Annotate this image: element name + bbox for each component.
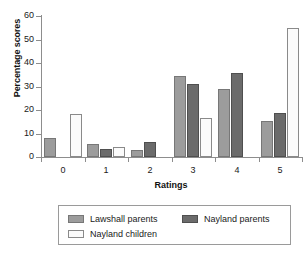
bar xyxy=(274,113,286,157)
x-tick-mark xyxy=(85,157,86,162)
x-tick-label: 2 xyxy=(135,165,165,175)
x-tick-label: 4 xyxy=(222,165,252,175)
y-tick-label: 20 xyxy=(0,105,34,114)
x-tick-mark xyxy=(215,157,216,162)
bar xyxy=(87,144,99,157)
y-tick-label: 40 xyxy=(0,58,34,67)
bar xyxy=(231,73,243,157)
legend-swatch-icon xyxy=(68,215,84,223)
x-tick-mark xyxy=(259,157,260,162)
bar xyxy=(100,149,112,157)
plot-area: Percentage scores Ratings 0102030405060 … xyxy=(0,0,307,200)
x-axis-title: Ratings xyxy=(40,180,302,190)
y-tick-label: 30 xyxy=(0,82,34,91)
bar xyxy=(144,142,156,157)
bar xyxy=(174,76,186,157)
legend-item-nayland-parents: Nayland parents xyxy=(182,214,270,224)
bar xyxy=(187,84,199,157)
legend-item-lawshall-parents: Lawshall parents xyxy=(68,214,158,224)
legend-label: Nayland children xyxy=(90,229,157,239)
bar xyxy=(218,89,230,157)
bar xyxy=(113,147,125,157)
y-tick-label: 10 xyxy=(0,129,34,138)
x-tick-mark xyxy=(172,157,173,162)
x-tick-label: 1 xyxy=(91,165,121,175)
y-tick-mark xyxy=(36,110,41,111)
legend-swatch-icon xyxy=(68,230,84,238)
bar-chart: Percentage scores Ratings 0102030405060 … xyxy=(0,0,307,253)
legend-label: Lawshall parents xyxy=(90,214,158,224)
y-tick-mark xyxy=(36,16,41,17)
y-tick-mark xyxy=(36,134,41,135)
y-tick-mark xyxy=(36,40,41,41)
bar xyxy=(261,121,273,157)
y-tick-mark xyxy=(36,87,41,88)
bar xyxy=(200,118,212,157)
x-tick-label: 0 xyxy=(48,165,78,175)
bar xyxy=(131,150,143,157)
x-tick-mark xyxy=(41,157,42,162)
legend-item-nayland-children: Nayland children xyxy=(68,229,157,239)
x-tick-mark xyxy=(302,157,303,162)
legend-label: Nayland parents xyxy=(204,214,270,224)
bar xyxy=(70,114,82,157)
bar xyxy=(287,28,299,157)
y-tick-label: 60 xyxy=(0,11,34,20)
y-tick-mark xyxy=(36,63,41,64)
y-axis-line xyxy=(41,15,42,158)
x-tick-mark xyxy=(128,157,129,162)
y-tick-label: 0 xyxy=(0,152,34,161)
legend-swatch-icon xyxy=(182,215,198,223)
bar xyxy=(44,138,56,157)
y-tick-label: 50 xyxy=(0,35,34,44)
x-tick-label: 5 xyxy=(265,165,295,175)
chart-legend: Lawshall parents Nayland parents Nayland… xyxy=(58,205,291,245)
x-tick-label: 3 xyxy=(178,165,208,175)
